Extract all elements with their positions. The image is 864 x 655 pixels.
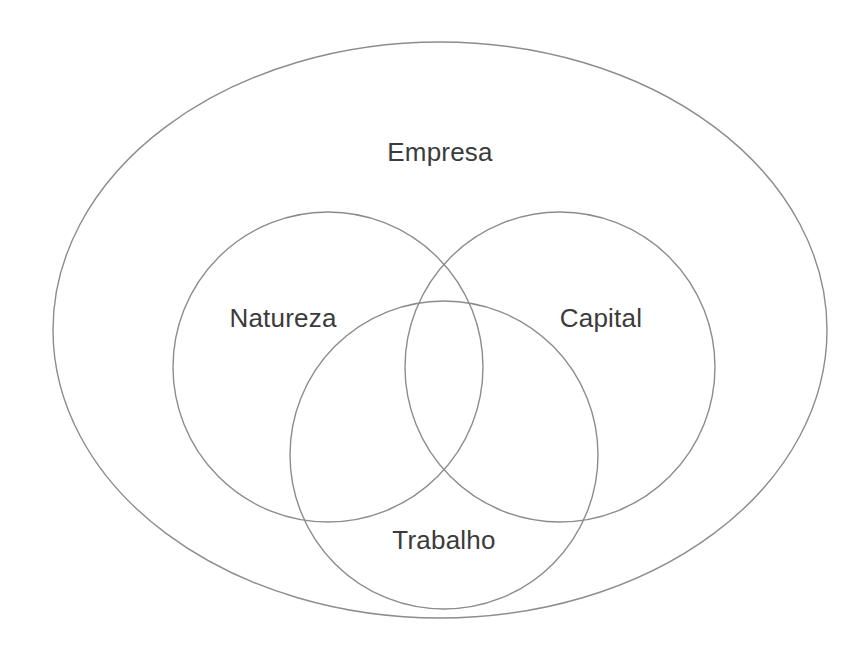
capital-label: Capital: [560, 303, 642, 334]
capital-circle: [405, 212, 715, 522]
empresa-label: Empresa: [387, 137, 492, 168]
trabalho-circle: [290, 301, 598, 609]
natureza-circle: [173, 212, 483, 522]
trabalho-label: Trabalho: [392, 525, 495, 556]
venn-diagram-canvas: [0, 0, 864, 655]
venn-diagram: Empresa Natureza Capital Trabalho: [0, 0, 864, 655]
natureza-label: Natureza: [229, 303, 336, 334]
